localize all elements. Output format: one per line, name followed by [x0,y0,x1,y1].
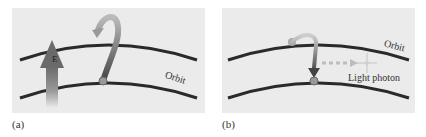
emission-arrow-icon [292,35,316,68]
photon-sparkle-icon [357,53,377,73]
electron-icon [99,77,107,85]
electron-icon [310,77,318,85]
field-label: E [52,54,58,64]
upper-orbit [228,45,409,60]
panel-b-emission: Orbit Light photon [222,8,415,113]
photon-arrow-icon [322,59,358,67]
lower-orbit [228,83,409,98]
excitation-diagram [12,8,205,113]
excitation-arrow-icon [98,17,118,81]
panel-a-excitation: E Orbit [12,8,205,113]
emission-diagram [222,8,415,113]
caption-b: (b) [222,118,235,130]
caption-a: (a) [12,118,24,130]
photon-label: Light photon [348,72,400,83]
